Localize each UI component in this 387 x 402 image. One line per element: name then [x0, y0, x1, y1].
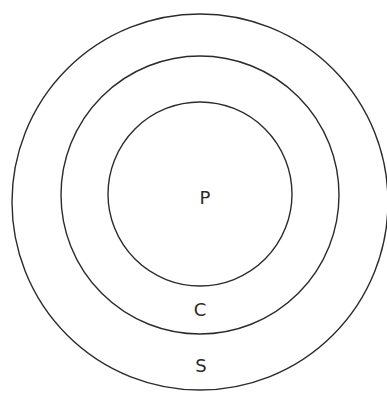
label-c: C: [194, 299, 207, 320]
label-s: S: [195, 355, 206, 376]
concentric-circles-diagram: P C S: [0, 0, 387, 402]
label-p: P: [200, 187, 211, 208]
